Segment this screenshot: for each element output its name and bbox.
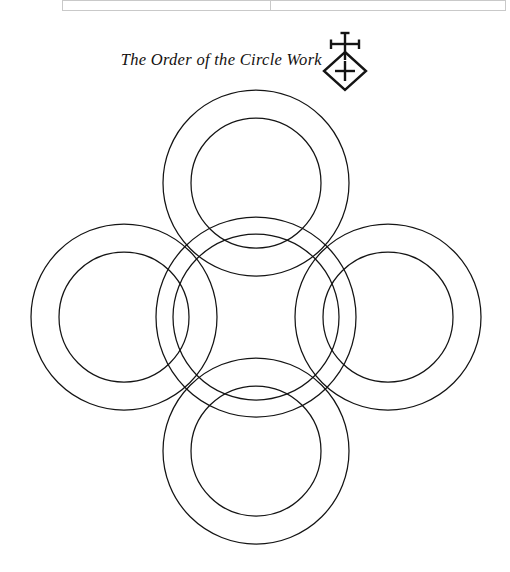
left-ring-inner [59, 252, 189, 382]
plate-page: The Order of the Circle Work [0, 0, 510, 572]
center-ring-inner [173, 234, 339, 400]
ring-group-left [31, 224, 217, 410]
ring-group-right [295, 224, 481, 410]
ring-group-bottom [163, 358, 349, 544]
ring-group-top [163, 90, 349, 276]
right-ring-inner [323, 252, 453, 382]
circle-work-diagram [0, 0, 510, 572]
